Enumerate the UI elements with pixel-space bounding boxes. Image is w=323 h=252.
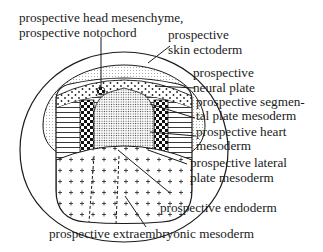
label-head-mesenchyme-line2: prospective notochord [19, 25, 137, 40]
label-head-mesenchyme-line1: prospective head mesenchyme, [19, 10, 183, 25]
label-heart-line1: prospective heart [196, 124, 287, 139]
label-neural-plate-line2: neural plate [193, 80, 255, 95]
label-extraembryonic-mesoderm: prospective extraembryonic mesoderm [49, 226, 255, 241]
label-segmental-plate-line2: tal plate mesoderm [196, 108, 297, 123]
label-neural-plate-line1: prospective [193, 65, 254, 80]
label-lateral-plate-line1: prospective lateral [190, 155, 287, 170]
label-endoderm: prospective endoderm [160, 200, 278, 215]
label-heart-line2: mesoderm [196, 138, 252, 153]
label-skin-ectoderm-line2: skin ectoderm [168, 42, 243, 57]
notochord-node [97, 87, 105, 95]
label-skin-ectoderm-line1: prospective [168, 27, 229, 42]
fate-map-diagram: prospective head mesenchyme, prospective… [0, 0, 323, 252]
label-segmental-plate-line1: prospective segmen- [196, 94, 305, 109]
label-lateral-plate-line2: plate mesoderm [190, 170, 275, 185]
